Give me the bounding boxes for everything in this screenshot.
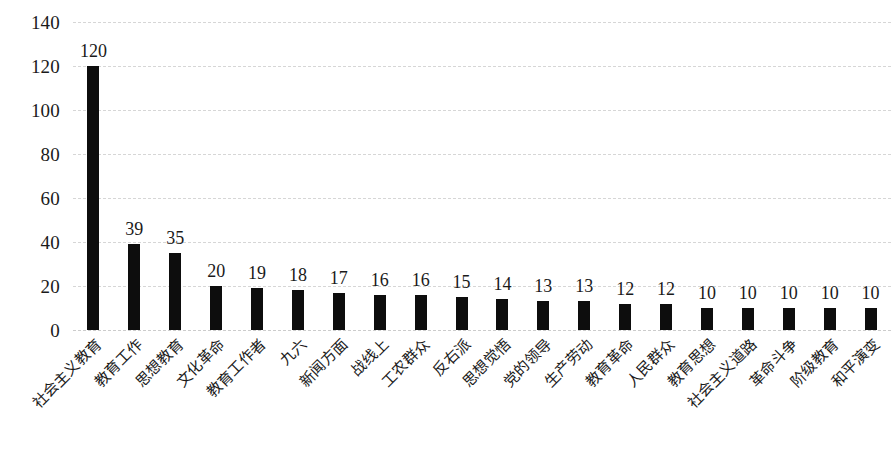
bar-chart: 020406080100120140 120393520191817161615… bbox=[0, 0, 894, 449]
bar-slot: 10 bbox=[850, 22, 891, 330]
x-tick-slot: 教育革命 bbox=[605, 332, 646, 449]
bar bbox=[660, 304, 672, 330]
x-tick-slot: 工农群众 bbox=[400, 332, 441, 449]
y-tick-label: 120 bbox=[0, 57, 60, 76]
x-tick-slot: 九六 bbox=[278, 332, 319, 449]
bar-slot: 10 bbox=[727, 22, 768, 330]
bar-slot: 35 bbox=[155, 22, 196, 330]
bar-value-label: 14 bbox=[493, 275, 511, 293]
bar-slot: 16 bbox=[400, 22, 441, 330]
bar-value-label: 13 bbox=[575, 277, 593, 295]
bar-value-label: 17 bbox=[330, 269, 348, 287]
x-tick-slot: 战线上 bbox=[359, 332, 400, 449]
bar-slot: 17 bbox=[318, 22, 359, 330]
bar-slot: 15 bbox=[441, 22, 482, 330]
y-tick-label: 100 bbox=[0, 101, 60, 120]
x-tick-slot: 新闻方面 bbox=[318, 332, 359, 449]
bar-slot: 10 bbox=[687, 22, 728, 330]
bar bbox=[824, 308, 836, 330]
y-tick-label: 40 bbox=[0, 233, 60, 252]
x-tick-label: 九六 bbox=[277, 336, 310, 369]
bar-value-label: 10 bbox=[739, 284, 757, 302]
bar-slot: 20 bbox=[196, 22, 237, 330]
bar bbox=[619, 304, 631, 330]
bar-slot: 14 bbox=[482, 22, 523, 330]
x-tick-slot: 党的领导 bbox=[523, 332, 564, 449]
bar-slot: 39 bbox=[114, 22, 155, 330]
y-tick-label: 140 bbox=[0, 13, 60, 32]
bar-value-label: 120 bbox=[80, 42, 107, 60]
x-tick-slot: 社会主义教育 bbox=[73, 332, 114, 449]
bar bbox=[292, 290, 304, 330]
gridline-0 bbox=[73, 330, 891, 331]
bar-value-label: 10 bbox=[862, 284, 880, 302]
bar bbox=[210, 286, 222, 330]
y-tick-label: 60 bbox=[0, 189, 60, 208]
bar bbox=[251, 288, 263, 330]
bar-value-label: 18 bbox=[289, 266, 307, 284]
x-tick-slot: 阶级教育 bbox=[809, 332, 850, 449]
x-tick-slot: 思想觉悟 bbox=[482, 332, 523, 449]
bar-slot: 12 bbox=[646, 22, 687, 330]
bar bbox=[456, 297, 468, 330]
x-tick-slot: 社会主义道路 bbox=[727, 332, 768, 449]
bar bbox=[783, 308, 795, 330]
bar-value-label: 39 bbox=[125, 220, 143, 238]
bar-slot: 12 bbox=[605, 22, 646, 330]
y-tick-label: 0 bbox=[0, 321, 60, 340]
bar-value-label: 16 bbox=[371, 271, 389, 289]
bar-slot: 10 bbox=[768, 22, 809, 330]
x-axis: 社会主义教育教育工作思想教育文化革命教育工作者九六新闻方面战线上工农群众反右派思… bbox=[73, 332, 891, 449]
bar bbox=[496, 299, 508, 330]
x-tick-slot: 反右派 bbox=[441, 332, 482, 449]
x-tick-slot: 生产劳动 bbox=[564, 332, 605, 449]
bar-slot: 10 bbox=[809, 22, 850, 330]
bar bbox=[415, 295, 427, 330]
x-tick-slot: 革命斗争 bbox=[768, 332, 809, 449]
bar bbox=[128, 244, 140, 330]
bar-value-label: 10 bbox=[698, 284, 716, 302]
x-tick-slot: 思想教育 bbox=[155, 332, 196, 449]
bar-slot: 13 bbox=[523, 22, 564, 330]
bar-slot: 19 bbox=[237, 22, 278, 330]
bar-value-label: 10 bbox=[780, 284, 798, 302]
bar bbox=[865, 308, 877, 330]
bar-value-label: 13 bbox=[534, 277, 552, 295]
bar-slot: 13 bbox=[564, 22, 605, 330]
bar bbox=[169, 253, 181, 330]
bar-value-label: 12 bbox=[657, 280, 675, 298]
y-tick-label: 80 bbox=[0, 145, 60, 164]
bar-value-label: 20 bbox=[207, 262, 225, 280]
bar-value-label: 15 bbox=[453, 273, 471, 291]
bar-slot: 18 bbox=[278, 22, 319, 330]
bar-value-label: 10 bbox=[821, 284, 839, 302]
bar bbox=[537, 301, 549, 330]
bar-value-label: 16 bbox=[412, 271, 430, 289]
bar-slot: 16 bbox=[359, 22, 400, 330]
x-tick-slot: 和平演变 bbox=[850, 332, 891, 449]
bar-slot: 120 bbox=[73, 22, 114, 330]
bar bbox=[742, 308, 754, 330]
bar bbox=[333, 293, 345, 330]
bar-value-label: 12 bbox=[616, 280, 634, 298]
bars-layer: 1203935201918171616151413131212101010101… bbox=[73, 22, 891, 330]
bar-value-label: 35 bbox=[166, 229, 184, 247]
y-tick-label: 20 bbox=[0, 277, 60, 296]
bar bbox=[374, 295, 386, 330]
bar bbox=[578, 301, 590, 330]
bar bbox=[701, 308, 713, 330]
x-tick-slot: 教育工作者 bbox=[237, 332, 278, 449]
bar bbox=[87, 66, 99, 330]
x-tick-slot: 教育工作 bbox=[114, 332, 155, 449]
x-tick-slot: 人民群众 bbox=[646, 332, 687, 449]
bar-value-label: 19 bbox=[248, 264, 266, 282]
